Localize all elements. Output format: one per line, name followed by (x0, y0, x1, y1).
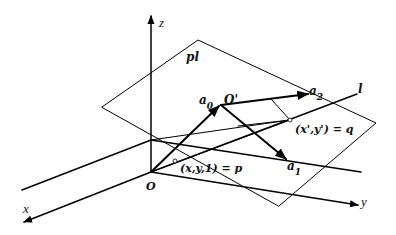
point-p (173, 159, 177, 163)
x-axis-label: x (22, 201, 29, 216)
vector-a2-label: a2 (309, 84, 323, 102)
line-l-label: l (358, 82, 363, 96)
projection-a2-to-q (271, 99, 290, 120)
plane-label: pl (186, 50, 199, 64)
vector-a0-label: a0 (199, 93, 214, 111)
point-p-label: (x,y,1) = p (180, 162, 242, 175)
y-axis-label: y (359, 194, 367, 209)
vector-a1 (221, 105, 286, 159)
x-axis (24, 172, 151, 222)
z-axis-label: z (158, 15, 164, 30)
projection-diagram: z x y O pl l O' (x,y,1) = p (x',y') = q … (0, 0, 396, 235)
y-axis (151, 172, 358, 205)
point-q (288, 118, 292, 122)
plane-origin-label: O' (224, 93, 238, 107)
origin-label: O (146, 180, 156, 193)
vector-a1-label: a1 (287, 159, 301, 177)
line-z1-to-q (151, 120, 290, 140)
z1-line-parallel-x (22, 140, 151, 190)
point-q-label: (x',y') = q (295, 123, 354, 136)
